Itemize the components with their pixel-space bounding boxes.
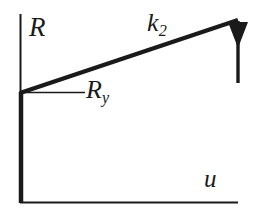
x-axis-label: u <box>204 166 217 191</box>
force-displacement-diagram: R k2 Ry u <box>0 0 271 214</box>
k2-branch-line <box>20 20 238 93</box>
y-axis-label: R <box>29 14 46 41</box>
unloading-arrow-head <box>228 22 248 48</box>
ry-subscript: y <box>102 89 109 106</box>
ry-base: R <box>86 75 102 104</box>
yield-force-label: Ry <box>86 77 109 103</box>
k2-slope-label: k2 <box>147 10 167 36</box>
k2-base: k <box>147 8 159 37</box>
k2-subscript: 2 <box>159 22 167 39</box>
